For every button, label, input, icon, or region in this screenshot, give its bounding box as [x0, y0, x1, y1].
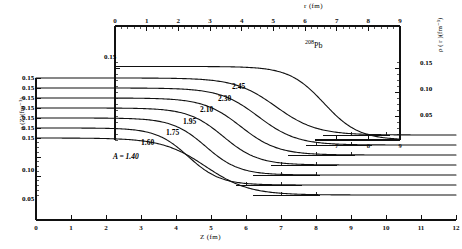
top-axis-tick-label-7: 7	[335, 17, 339, 25]
main-x-axis-tick-label-12: 12	[453, 224, 461, 232]
main-x-axis-tick-label-5: 5	[209, 224, 213, 232]
main-x-axis-tick-label-7: 7	[279, 224, 283, 232]
stacked-y-tick-label-4: 0.15	[22, 114, 34, 122]
top-right-tick-0.15: 0.15	[420, 59, 432, 67]
main-x-axis-tick-label-8: 8	[314, 224, 318, 232]
pb208-mass-number: 208	[305, 39, 314, 45]
top-right-tick-0.05: 0.05	[420, 111, 432, 119]
top-axis-tick-label-6: 6	[303, 17, 307, 25]
main-y-tick-0.05: 0.05	[22, 195, 34, 203]
main-x-axis-tick-label-2: 2	[104, 224, 108, 232]
main-x-axis-tick-label-1: 1	[69, 224, 73, 232]
main-x-axis-label: Z (fm)	[200, 233, 221, 241]
top-axis-tick-label-1: 1	[145, 17, 149, 25]
pb208-element: Pb	[314, 41, 322, 50]
curve-label-2.10: 2.10	[200, 105, 213, 114]
top-axis-tick-label-0: 0	[113, 17, 117, 25]
curve-label-1.95: 1.95	[183, 117, 196, 126]
top-axis-tick-label-9: 9	[398, 17, 402, 25]
pb208-curve-label: 208Pb	[305, 39, 322, 50]
main-x-axis-tick-label-10: 10	[383, 224, 391, 232]
main-x-axis-tick-label-6: 6	[244, 224, 248, 232]
main-x-axis-tick-label-4: 4	[174, 224, 178, 232]
main-x-axis-tick-label-9: 9	[349, 224, 353, 232]
stacked-y-tick-label-0: 0.15	[22, 74, 34, 82]
curve-label-1.40: A = 1.40	[113, 152, 139, 161]
chart-canvas: 01234567897890123456789101112	[0, 0, 462, 249]
curve-2.45	[36, 78, 456, 135]
curve-label-2.30: 2.30	[218, 94, 231, 103]
stacked-y-tick-label-6: 0.15	[22, 134, 34, 142]
main-x-axis-tick-label-11: 11	[418, 224, 425, 232]
top-axis-tick-label-5: 5	[272, 17, 276, 25]
top-left-tick-label: 0.15	[104, 53, 116, 61]
stacked-y-tick-label-3: 0.15	[22, 104, 34, 112]
stacked-y-tick-label-1: 0.15	[22, 84, 34, 92]
stacked-y-tick-label-5: 0.15	[22, 124, 34, 132]
curve-pb208	[115, 66, 400, 139]
curve-2.10	[36, 98, 456, 155]
top-axis-tick-label-8: 8	[367, 17, 371, 25]
top-axis-tick-label-4: 4	[240, 17, 244, 25]
curve-label-1.75: 1.75	[166, 128, 179, 137]
figure-root: 01234567897890123456789101112 r (fm) 0.1…	[0, 0, 462, 249]
curve-label-1.60: 1.60	[141, 138, 154, 147]
top-axis-tick-label-3: 3	[208, 17, 212, 25]
top-axis-tick-label-2: 2	[177, 17, 181, 25]
top-x-axis-label: r (fm)	[304, 2, 323, 10]
curve-1.40	[36, 138, 456, 195]
curve-1.75	[36, 118, 456, 175]
curve-1.95	[36, 108, 456, 165]
top-right-axis-label: ρ ( r )(fm⁻³)	[436, 18, 444, 52]
main-x-axis-tick-label-3: 3	[139, 224, 143, 232]
curve-2.30	[36, 88, 456, 145]
curve-label-2.45: 2.45	[232, 82, 245, 91]
stacked-y-tick-label-2: 0.15	[22, 94, 34, 102]
main-y-tick-0.10: 0.10	[22, 166, 34, 174]
main-x-axis-tick-label-0: 0	[34, 224, 38, 232]
top-right-tick-0.10: 0.10	[420, 85, 432, 93]
curve-1.60	[36, 128, 456, 185]
